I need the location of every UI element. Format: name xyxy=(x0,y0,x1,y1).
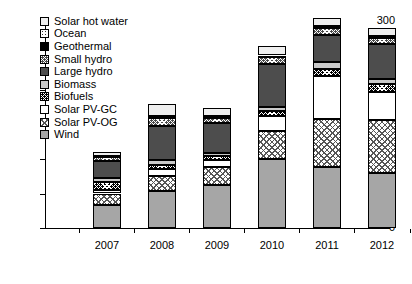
y-tick-mark xyxy=(40,194,45,195)
legend-label: Geothermal xyxy=(54,41,111,52)
bar-segment-wind xyxy=(368,173,396,228)
bar-segment-lhydro xyxy=(313,35,341,63)
bar-segment-wind xyxy=(148,191,176,228)
legend-item-biofuels[interactable]: Biofuels xyxy=(40,91,128,104)
x-tick-mark xyxy=(299,229,300,233)
legend-item-wind[interactable]: Wind xyxy=(40,128,128,141)
bar-segment-wind xyxy=(258,159,286,228)
y-tick-mark xyxy=(40,159,45,160)
bar-segment-pvgc xyxy=(203,160,231,167)
bar-segment-biofuels xyxy=(148,165,176,169)
x-tick-mark xyxy=(79,229,80,233)
bar-segment-lhydro xyxy=(93,161,121,178)
legend-item-lhydro[interactable]: Large hydro xyxy=(40,65,128,78)
legend-label: Biofuels xyxy=(54,91,93,102)
legend-label: Wind xyxy=(54,129,79,140)
x-tick-label-2009: 2009 xyxy=(187,239,247,251)
legend-label: Large hydro xyxy=(54,66,113,77)
legend-swatch-icon xyxy=(40,42,49,51)
bar-segment-ocean xyxy=(148,116,176,118)
legend-item-pvog[interactable]: Solar PV-OG xyxy=(40,116,128,129)
legend-swatch-icon xyxy=(40,55,49,64)
legend-item-geo[interactable]: Geothermal xyxy=(40,40,128,53)
bar-segment-biomass xyxy=(93,178,121,181)
x-tick-mark xyxy=(410,229,411,233)
bar-segment-biofuels xyxy=(203,156,231,160)
legend-swatch-icon xyxy=(40,118,49,127)
legend-label: Solar PV-GC xyxy=(54,104,117,115)
x-axis-line xyxy=(45,228,390,229)
bar-segment-shw xyxy=(203,108,231,116)
x-tick-label-2008: 2008 xyxy=(132,239,192,251)
bar-segment-ocean xyxy=(368,36,396,38)
bar-segment-pvog xyxy=(93,194,121,206)
x-tick-label-2010: 2010 xyxy=(242,239,302,251)
bar-segment-shw xyxy=(93,152,121,155)
bar-segment-pvgc xyxy=(148,169,176,176)
x-tick-mark xyxy=(134,229,135,233)
bar-segment-pvog xyxy=(148,176,176,191)
bar-segment-ocean xyxy=(313,26,341,28)
stacked-bar-2011 xyxy=(313,0,341,228)
bar-segment-biofuels xyxy=(313,69,341,76)
x-tick-label-2012: 2012 xyxy=(352,239,412,251)
bar-segment-biofuels xyxy=(93,182,121,190)
bar-segment-pvgc xyxy=(93,190,121,193)
bar-segment-wind xyxy=(203,185,231,228)
legend-swatch-icon xyxy=(40,67,49,76)
bar-segment-pvgc xyxy=(258,116,286,131)
bar-segment-ocean xyxy=(93,156,121,158)
stacked-bar-2012 xyxy=(368,0,396,228)
y-tick-mark xyxy=(40,228,45,229)
bar-segment-biomass xyxy=(258,107,286,111)
bar-segment-pvog xyxy=(313,119,341,167)
legend-item-shydro[interactable]: Small hydro xyxy=(40,53,128,66)
x-tick-mark xyxy=(244,229,245,233)
stacked-bar-2008 xyxy=(148,0,176,228)
bar-segment-pvgc xyxy=(368,92,396,120)
bar-segment-pvog xyxy=(258,131,286,159)
bar-segment-pvog xyxy=(203,167,231,184)
legend-label: Ocean xyxy=(54,28,86,39)
bar-segment-ocean xyxy=(203,116,231,118)
legend-swatch-icon xyxy=(40,17,49,26)
legend-label: Biomass xyxy=(54,79,96,90)
bar-segment-wind xyxy=(313,167,341,228)
bar-segment-biomass xyxy=(148,160,176,165)
chart-legend: Solar hot waterOceanGeothermalSmall hydr… xyxy=(40,15,128,141)
legend-item-ocean[interactable]: Ocean xyxy=(40,28,128,41)
bar-segment-biofuels xyxy=(258,111,286,117)
x-tick-mark xyxy=(189,229,190,233)
legend-swatch-icon xyxy=(40,92,49,101)
bar-segment-biomass xyxy=(368,79,396,84)
bar-segment-pvog xyxy=(368,120,396,173)
x-tick-mark xyxy=(354,229,355,233)
legend-swatch-icon xyxy=(40,130,49,139)
legend-swatch-icon xyxy=(40,80,49,89)
bar-segment-lhydro xyxy=(368,44,396,79)
bar-segment-lhydro xyxy=(148,126,176,161)
bar-segment-ocean xyxy=(258,56,286,58)
legend-item-shw[interactable]: Solar hot water xyxy=(40,15,128,28)
stacked-bar-2009 xyxy=(203,0,231,228)
bar-segment-biomass xyxy=(203,153,231,156)
bar-segment-shw xyxy=(148,104,176,116)
bar-segment-wind xyxy=(93,205,121,228)
bar-segment-biomass xyxy=(313,62,341,68)
legend-label: Solar PV-OG xyxy=(54,117,118,128)
bar-segment-lhydro xyxy=(258,64,286,107)
legend-label: Small hydro xyxy=(54,54,112,65)
legend-swatch-icon xyxy=(40,29,49,38)
bar-segment-shw xyxy=(368,28,396,36)
legend-swatch-icon xyxy=(40,105,49,114)
legend-label: Solar hot water xyxy=(54,16,128,27)
bar-segment-pvgc xyxy=(313,76,341,119)
legend-item-pvgc[interactable]: Solar PV-GC xyxy=(40,103,128,116)
stacked-bar-2010 xyxy=(258,0,286,228)
x-tick-label-2011: 2011 xyxy=(297,239,357,251)
bar-segment-lhydro xyxy=(203,123,231,153)
legend-item-biomass[interactable]: Biomass xyxy=(40,78,128,91)
bar-segment-biofuels xyxy=(368,84,396,92)
x-tick-label-2007: 2007 xyxy=(77,239,137,251)
